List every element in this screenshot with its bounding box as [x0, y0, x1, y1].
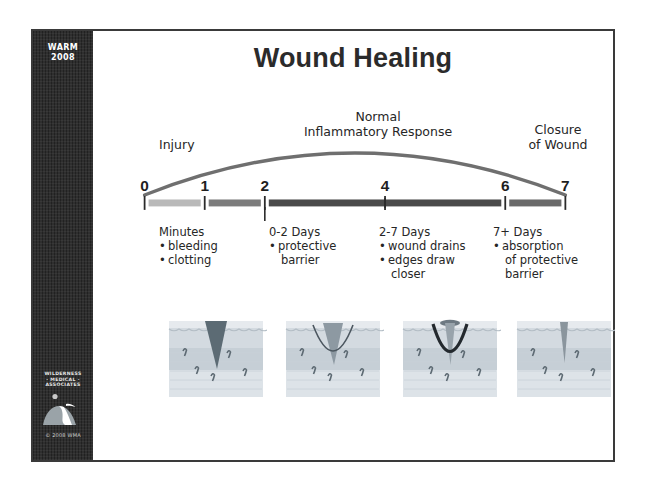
- timeline-segment-0: [149, 199, 201, 206]
- phase-description-1: 0-2 Daysprotectivebarrier: [269, 225, 373, 267]
- skin-layer-3: [517, 370, 611, 397]
- phase-bullet-3-0: absorptionof protectivebarrier: [493, 239, 609, 281]
- copyright-notice: © 2008 WMA: [33, 432, 93, 438]
- sidebar-band: WARM 2008 WILDERNESS · MEDICAL · ASSOCIA…: [33, 31, 93, 460]
- program-badge: WARM 2008: [33, 43, 93, 63]
- phase-heading-3: 7+ Days: [493, 225, 609, 239]
- timeline-tick-label-2: 2: [261, 177, 270, 194]
- phase-description-2: 2-7 Dayswound drainsedges drawcloser: [379, 225, 491, 281]
- phase-bullet-cont: of protective: [502, 253, 609, 267]
- phase-heading-1: 0-2 Days: [269, 225, 373, 239]
- phase-bullet-0-1: clotting: [159, 253, 259, 267]
- skin-layer-3: [403, 370, 497, 397]
- program-year: 2008: [33, 53, 93, 63]
- organization-logo: WILDERNESS · MEDICAL · ASSOCIATES: [33, 371, 93, 426]
- skin-cross-section-panels: [93, 313, 613, 423]
- timeline-tick-label-6: 6: [501, 177, 510, 194]
- phase-bullet-list-2: wound drainsedges drawcloser: [379, 239, 491, 281]
- skin-layer-3: [286, 370, 380, 397]
- slide-content: Wound Healing Injury Normal Inflammatory…: [93, 31, 613, 460]
- timeline-segment-1: [209, 199, 261, 206]
- phase-heading-2: 2-7 Days: [379, 225, 491, 239]
- timeline-segment-3: [509, 199, 561, 206]
- timeline-tick-label-7: 7: [561, 177, 570, 194]
- skin-panel-closure: [513, 313, 615, 405]
- skin-layer-3: [169, 370, 263, 397]
- phase-bullet-1-0: protectivebarrier: [269, 239, 373, 267]
- mountain-logo-icon: [42, 392, 84, 426]
- phase-bullet-cont: barrier: [278, 253, 373, 267]
- healing-timeline: 012467: [93, 171, 613, 221]
- phase-bullet-list-0: bleedingclotting: [159, 239, 259, 267]
- page-title: Wound Healing: [93, 43, 613, 74]
- timeline-tick-label-0: 0: [140, 177, 149, 194]
- logo-line-associates: ASSOCIATES: [33, 382, 93, 388]
- timeline-tick-label-4: 4: [381, 177, 390, 194]
- phase-bullet-2-1: edges drawcloser: [379, 253, 491, 281]
- timeline-tick-label-1: 1: [200, 177, 209, 194]
- program-name: WARM: [33, 43, 93, 53]
- phase-bullet-list-1: protectivebarrier: [269, 239, 373, 267]
- slide-frame: WARM 2008 WILDERNESS · MEDICAL · ASSOCIA…: [31, 29, 615, 462]
- phase-bullet-cont: closer: [388, 267, 491, 281]
- phase-heading-0: Minutes: [159, 225, 259, 239]
- phase-bullet-0-0: bleeding: [159, 239, 259, 253]
- phase-description-0: Minutesbleedingclotting: [159, 225, 259, 267]
- skin-panel-protective-barrier: [282, 313, 384, 405]
- phase-bullet-list-3: absorptionof protectivebarrier: [493, 239, 609, 281]
- phase-description-3: 7+ Daysabsorptionof protectivebarrier: [493, 225, 609, 281]
- skin-panel-wound-drains: [399, 313, 501, 405]
- skin-panel-injury: [165, 313, 267, 405]
- phase-bullet-2-0: wound drains: [379, 239, 491, 253]
- phase-bullet-cont: barrier: [502, 267, 609, 281]
